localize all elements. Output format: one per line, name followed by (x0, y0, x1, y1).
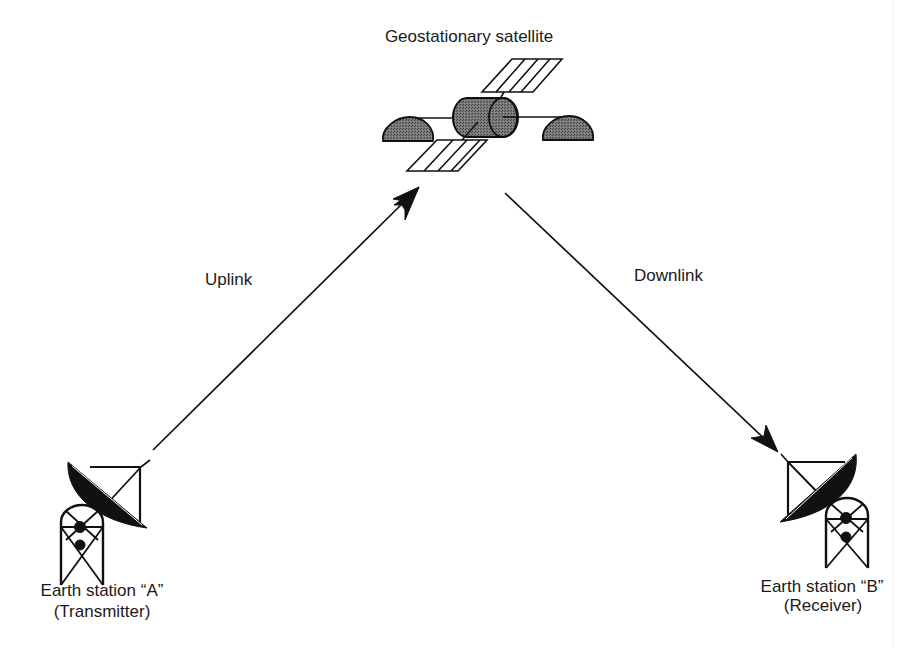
tower-icon (826, 498, 868, 568)
satellite-dish-icon (780, 454, 856, 522)
satellite-link-diagram: Geostationary satellite (0, 0, 919, 648)
satellite-dish-icon (68, 460, 150, 528)
solar-panel-bottom (407, 140, 487, 171)
satellite-title: Geostationary satellite (385, 27, 553, 46)
uplink-arrow (153, 187, 419, 450)
station-a-name: Earth station “A” (41, 581, 164, 600)
downlink-label: Downlink (634, 266, 703, 285)
earth-station-b (780, 454, 868, 568)
station-b-role: (Receiver) (784, 596, 862, 615)
solar-panel-top (482, 59, 562, 99)
tower-icon (61, 505, 103, 585)
downlink-arrow (505, 193, 778, 452)
earth-station-a (61, 460, 150, 585)
station-a-role: (Transmitter) (54, 602, 151, 621)
antenna-dish-left (383, 117, 433, 141)
station-b-name: Earth station “B” (761, 577, 884, 596)
satellite-icon (383, 59, 593, 171)
uplink-label: Uplink (205, 270, 253, 289)
antenna-dish-right (543, 116, 593, 140)
